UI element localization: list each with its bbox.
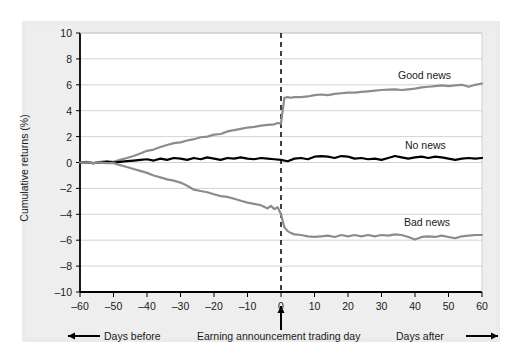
y-tick-label: 8 bbox=[40, 54, 72, 65]
series-label-no-news: No news bbox=[405, 139, 446, 151]
y-tick-label: 4 bbox=[40, 106, 72, 117]
days-before-caption: Days before bbox=[104, 330, 161, 342]
x-tick-label: 40 bbox=[399, 301, 431, 312]
x-tick-label: 20 bbox=[332, 301, 364, 312]
series-label-good-news: Good news bbox=[398, 69, 451, 81]
y-tick-label: 2 bbox=[40, 132, 72, 143]
series-label-bad-news: Bad news bbox=[404, 216, 450, 228]
x-tick-label: –30 bbox=[165, 301, 197, 312]
y-tick-label: –8 bbox=[40, 261, 72, 272]
x-tick-label: 50 bbox=[433, 301, 465, 312]
y-tick-label: –10 bbox=[40, 287, 72, 298]
x-tick-label: 10 bbox=[299, 301, 331, 312]
y-tick-label: 0 bbox=[40, 158, 72, 169]
x-tick-label: 60 bbox=[466, 301, 498, 312]
y-tick-label: –4 bbox=[40, 209, 72, 220]
y-axis-title: Cumulative returns (%) bbox=[18, 98, 30, 238]
x-tick-label: –20 bbox=[198, 301, 230, 312]
x-tick-label: –50 bbox=[98, 301, 130, 312]
event-caption: Earning announcement trading day bbox=[197, 330, 360, 342]
x-tick-label: –60 bbox=[64, 301, 96, 312]
x-tick-label: 30 bbox=[366, 301, 398, 312]
days-after-caption: Days after bbox=[396, 330, 444, 342]
x-tick-label: 0 bbox=[265, 301, 297, 312]
y-tick-label: –2 bbox=[40, 183, 72, 194]
figure-root: –10–8–6–4–20246810 –60–50–40–30–20–10010… bbox=[0, 0, 522, 363]
x-tick-label: –10 bbox=[232, 301, 264, 312]
y-tick-label: –6 bbox=[40, 235, 72, 246]
y-tick-label: 10 bbox=[40, 28, 72, 39]
y-tick-label: 6 bbox=[40, 80, 72, 91]
x-tick-label: –40 bbox=[131, 301, 163, 312]
